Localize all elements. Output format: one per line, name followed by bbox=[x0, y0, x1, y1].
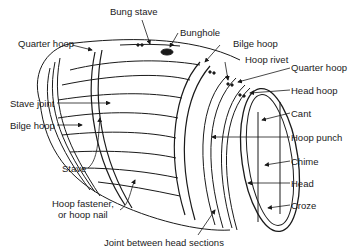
label-chime: Chime bbox=[291, 156, 318, 167]
label-bilge-hoop-left: Bilge hoop bbox=[10, 120, 55, 131]
label-quarter-hoop-left: Quarter hoop bbox=[18, 38, 74, 49]
label-bilge-hoop-top: Bilge hoop bbox=[233, 38, 278, 49]
label-hoop-fastener-line2: or hoop nail bbox=[52, 209, 114, 220]
label-stave-joint: Stave joint bbox=[10, 98, 54, 109]
label-hoop-punch: Hoop punch bbox=[291, 132, 342, 143]
label-cant: Cant bbox=[291, 108, 311, 119]
label-stave: Stave bbox=[62, 163, 86, 174]
label-joint-between-head-sections: Joint between head sections bbox=[104, 237, 224, 248]
label-bung-stave: Bung stave bbox=[110, 6, 158, 17]
label-bunghole: Bunghole bbox=[180, 27, 220, 38]
label-head-hoop: Head hoop bbox=[291, 85, 337, 96]
label-hoop-fastener-line1: Hoop fastener, bbox=[52, 198, 114, 209]
label-croze: Croze bbox=[291, 200, 316, 211]
label-hoop-rivet: Hoop rivet bbox=[245, 54, 288, 65]
label-head: Head bbox=[291, 178, 314, 189]
label-quarter-hoop-right: Quarter hoop bbox=[291, 62, 347, 73]
label-hoop-fastener: Hoop fastener, or hoop nail bbox=[52, 198, 114, 220]
